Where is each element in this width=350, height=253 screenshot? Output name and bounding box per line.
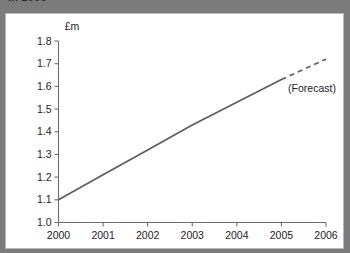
title-bar: in 2006	[0, 0, 350, 13]
forecast-annotation-label: (Forecast)	[288, 82, 336, 94]
chart-annotations: (Forecast)	[288, 82, 336, 94]
series-line-actual	[59, 80, 282, 200]
y-tick-label: 1.7	[37, 57, 52, 69]
y-tick-label: 1.4	[37, 125, 52, 137]
line-chart-svg: 1.01.11.21.31.41.51.61.71.8 200020012002…	[6, 14, 343, 248]
x-axis: 2000200120022003200420052006	[47, 223, 338, 241]
x-tick-label: 2006	[314, 229, 338, 241]
x-tick-label: 2001	[91, 229, 115, 241]
y-axis-unit-label: £m	[65, 20, 80, 32]
data-series-group	[59, 59, 327, 200]
x-axis-tick-labels: 2000200120022003200420052006	[47, 229, 338, 241]
chart-screenshot: in 2006 1.01.11.21.31.41.51.61.71.8 2000…	[0, 0, 350, 253]
y-tick-label: 1.5	[37, 103, 52, 115]
x-tick-label: 2003	[181, 229, 205, 241]
x-tick-label: 2004	[225, 229, 249, 241]
series-line-forecast	[281, 59, 326, 79]
chart-plot-area: 1.01.11.21.31.41.51.61.71.8 200020012002…	[6, 14, 343, 248]
y-tick-label: 1.8	[37, 35, 52, 47]
y-axis: 1.01.11.21.31.41.51.61.71.8	[37, 35, 59, 229]
y-tick-label: 1.0	[37, 216, 52, 228]
y-tick-label: 1.2	[37, 171, 52, 183]
chart-card: 1.01.11.21.31.41.51.61.71.8 200020012002…	[5, 13, 344, 249]
y-axis-ticks	[55, 41, 59, 223]
y-tick-label: 1.6	[37, 80, 52, 92]
y-axis-tick-labels: 1.01.11.21.31.41.51.61.71.8	[37, 35, 52, 229]
x-tick-label: 2002	[136, 229, 160, 241]
y-tick-label: 1.1	[37, 193, 52, 205]
y-tick-label: 1.3	[37, 148, 52, 160]
x-tick-label: 2005	[270, 229, 294, 241]
x-axis-ticks	[59, 223, 327, 227]
x-tick-label: 2000	[47, 229, 71, 241]
page-title: in 2006	[8, 0, 47, 3]
